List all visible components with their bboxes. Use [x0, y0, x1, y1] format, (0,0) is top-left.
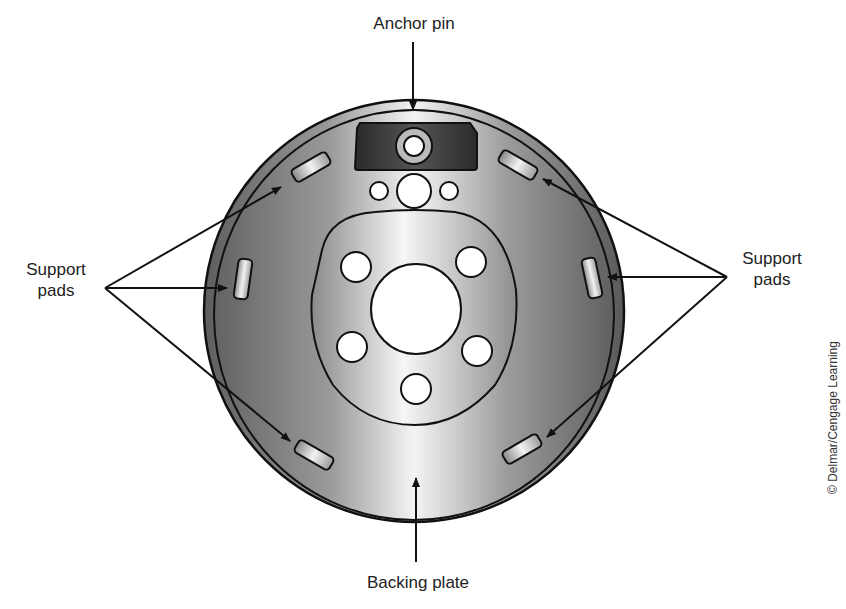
label-support-pads-left-line2: pads: [16, 280, 96, 301]
label-support-pads-left-line1: Support: [16, 259, 96, 280]
label-support-pads-left: Support pads: [16, 259, 96, 301]
backing-plate-diagram: [0, 0, 846, 609]
anchor-pin: [355, 123, 477, 170]
label-support-pads-right-line1: Support: [732, 248, 812, 269]
label-backing-plate: Backing plate: [340, 572, 496, 593]
label-anchor-pin: Anchor pin: [352, 13, 476, 34]
copyright-credit: © Delmar/Cengage Learning: [826, 341, 840, 494]
label-support-pads-right-line2: pads: [732, 269, 812, 290]
label-support-pads-right: Support pads: [732, 248, 812, 290]
